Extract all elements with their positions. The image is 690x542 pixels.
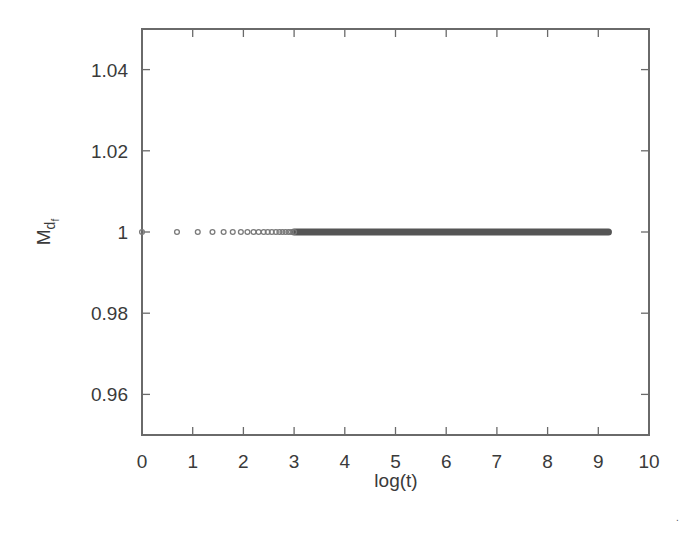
x-tick-label: 1 bbox=[187, 451, 198, 472]
x-tick-label: 4 bbox=[340, 451, 351, 472]
y-axis-label: Mdf bbox=[33, 219, 61, 246]
y-tick-label: 0.98 bbox=[91, 303, 128, 324]
y-tick-label: 1.04 bbox=[91, 60, 128, 81]
x-tick-label: 9 bbox=[593, 451, 604, 472]
data-point bbox=[251, 230, 256, 235]
data-point bbox=[195, 230, 200, 235]
data-point bbox=[221, 230, 226, 235]
svg-text:Mdf: Mdf bbox=[33, 219, 61, 246]
x-tick-label: 0 bbox=[137, 451, 148, 472]
x-tick-label: 2 bbox=[238, 451, 249, 472]
data-series bbox=[140, 230, 609, 235]
x-tick-label: 7 bbox=[492, 451, 503, 472]
data-point bbox=[238, 230, 243, 235]
y-axis-label-main: M bbox=[33, 229, 54, 245]
data-point bbox=[175, 230, 180, 235]
data-point bbox=[230, 230, 235, 235]
y-tick-label: 0.96 bbox=[91, 384, 128, 405]
x-tick-label: 6 bbox=[441, 451, 452, 472]
x-axis-ticks: 012345678910 bbox=[137, 29, 660, 472]
data-point bbox=[210, 230, 215, 235]
y-tick-label: 1 bbox=[117, 222, 128, 243]
stray-mark: . bbox=[676, 512, 679, 523]
x-tick-label: 3 bbox=[289, 451, 300, 472]
x-tick-label: 5 bbox=[390, 451, 401, 472]
x-tick-label: 10 bbox=[638, 451, 659, 472]
y-axis-label-subsub: f bbox=[50, 219, 61, 222]
data-point bbox=[245, 230, 250, 235]
y-tick-label: 1.02 bbox=[91, 141, 128, 162]
y-axis-label-sub: d bbox=[42, 222, 58, 230]
chart: 012345678910 0.960.9811.021.04 log(t) Md… bbox=[0, 0, 690, 542]
x-axis-label: log(t) bbox=[374, 470, 417, 491]
data-point bbox=[256, 230, 261, 235]
x-tick-label: 8 bbox=[542, 451, 553, 472]
